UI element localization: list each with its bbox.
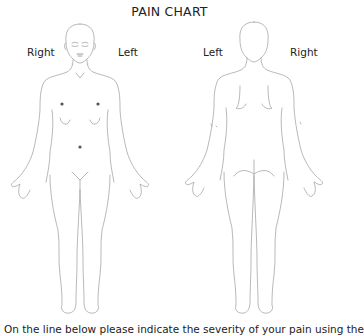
back-torso-outline-right — [261, 58, 323, 196]
front-chest-right — [60, 118, 70, 124]
front-torso-outline — [11, 60, 73, 198]
front-collar-notch — [76, 73, 84, 78]
page-title: PAIN CHART — [0, 4, 339, 19]
back-leg-right — [254, 172, 284, 313]
front-leg-left — [80, 175, 110, 313]
back-side-left — [220, 108, 227, 180]
back-scapula-left — [236, 86, 246, 109]
pain-marker-left-chest[interactable] — [96, 102, 99, 105]
front-leg-right — [50, 175, 80, 313]
front-chest-left — [90, 118, 100, 124]
front-side-right — [46, 110, 53, 182]
pain-marker-right-chest[interactable] — [60, 102, 63, 105]
back-side-right — [281, 108, 288, 180]
back-buttocks — [234, 160, 274, 176]
front-side-left — [107, 110, 114, 182]
instructions-text: On the line below please indicate the se… — [4, 323, 364, 335]
front-mouth — [77, 54, 83, 56]
front-groin — [72, 172, 88, 190]
front-head-outline — [66, 24, 94, 63]
back-torso-outline-left — [185, 58, 247, 196]
front-torso-outline-left — [87, 60, 149, 198]
back-head-outline — [240, 22, 268, 62]
back-leg-left — [224, 172, 254, 313]
front-eyes — [72, 42, 88, 47]
back-scapula-right — [262, 86, 272, 109]
back-body-figure[interactable] — [170, 20, 339, 325]
pain-marker-abdomen[interactable] — [78, 145, 81, 148]
front-body-figure[interactable] — [0, 20, 170, 325]
back-elbow-right — [300, 122, 301, 124]
